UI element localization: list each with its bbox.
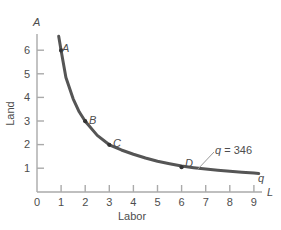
y-tick-label-2: 2 [20,139,34,150]
x-tick-label-8: 8 [223,197,237,208]
x-tick-label-3: 3 [102,197,116,208]
y-tick-label-4: 4 [20,92,34,103]
y-tick-label-6: 6 [20,45,34,56]
x-axis-ticks [61,185,254,192]
curve-annotation: q = 346 [215,145,252,156]
x-tick-label-7: 7 [199,197,213,208]
data-point-C [107,143,111,147]
annotation-leader-line [197,152,214,170]
x-tick-label-9: 9 [247,197,261,208]
data-point-D [180,165,184,169]
isoquant-chart-figure: A L 6 5 4 3 2 1 0 1 2 3 4 5 6 7 8 9 Land… [0,0,281,230]
y-tick-label-3: 3 [20,116,34,127]
data-point-B [83,119,87,123]
curve-end-label: q [258,173,264,184]
x-axis-symbol: L [267,187,273,198]
point-label-D: D [185,158,193,169]
x-tick-label-4: 4 [126,197,140,208]
x-tick-label-1: 1 [54,197,68,208]
x-tick-label-0: 0 [30,197,44,208]
curve-annotation-symbol: q [215,144,221,156]
chart-plot-area [0,0,281,230]
y-axis-title: Land [5,94,16,134]
point-label-B: B [89,115,96,126]
x-axis-title: Labor [118,211,146,222]
curve-annotation-value: = 346 [224,144,252,156]
y-axis-symbol: A [33,17,40,28]
point-label-A: A [62,43,69,54]
point-label-C: C [113,138,121,149]
y-tick-label-1: 1 [20,163,34,174]
x-tick-label-6: 6 [175,197,189,208]
x-tick-label-5: 5 [151,197,165,208]
y-axis-ticks [37,50,44,168]
y-tick-label-5: 5 [20,69,34,80]
x-tick-label-2: 2 [78,197,92,208]
